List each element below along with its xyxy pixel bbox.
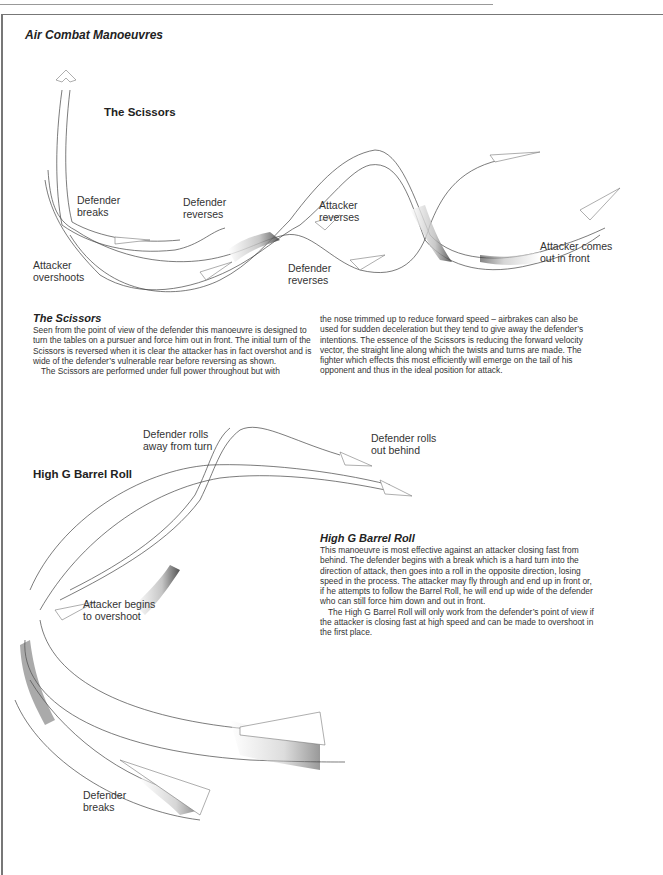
label-attacker-comes-out: Attacker comes out in front	[540, 240, 612, 264]
aircraft-icon	[120, 760, 210, 815]
aircraft-icon	[580, 188, 620, 220]
scissors-para-1: Seen from the point of view of the defen…	[33, 325, 323, 366]
barrel-roll-text: High G Barrel Roll This manoeuvre is mos…	[320, 532, 595, 638]
scissors-para-3: the nose trimmed up to reduce forward sp…	[320, 314, 588, 376]
aircraft-icon	[380, 480, 412, 496]
label-defender-rolls-away: Defender rolls away from turn	[143, 428, 212, 452]
aircraft-icon	[350, 255, 385, 270]
label-defender-breaks: Defender breaks	[77, 194, 120, 218]
barrel-roll-diagram-title: High G Barrel Roll	[33, 468, 132, 480]
aircraft-icon	[56, 70, 76, 82]
label-defender-rolls-out: Defender rolls out behind	[371, 432, 436, 456]
scissors-text-left: The Scissors Seen from the point of view…	[33, 312, 323, 376]
label-defender-breaks-barrel: Defender breaks	[83, 789, 126, 813]
scissors-text-right: the nose trimmed up to reduce forward sp…	[320, 314, 588, 376]
label-defender-reverses-1: Defender reverses	[183, 196, 226, 220]
scissors-para-2: The Scissors are performed under full po…	[33, 366, 323, 376]
label-attacker-reverses: Attacker reverses	[319, 199, 359, 223]
barrel-roll-heading: High G Barrel Roll	[320, 532, 595, 545]
label-attacker-overshoots: Attacker overshoots	[33, 259, 84, 283]
aircraft-icon	[490, 152, 540, 162]
aircraft-icons	[55, 70, 620, 815]
label-attacker-begins-overshoot: Attacker begins to overshoot	[83, 598, 155, 622]
barrel-roll-para-1: This manoeuvre is most effective against…	[320, 545, 595, 607]
barrel-roll-para-2: The High G Barrel Roll will only work fr…	[320, 607, 595, 638]
scissors-heading: The Scissors	[33, 312, 323, 325]
aircraft-icon	[340, 452, 372, 466]
scissors-diagram-title: The Scissors	[104, 106, 176, 118]
aircraft-icon	[115, 237, 150, 244]
label-defender-reverses-2: Defender reverses	[288, 262, 331, 286]
